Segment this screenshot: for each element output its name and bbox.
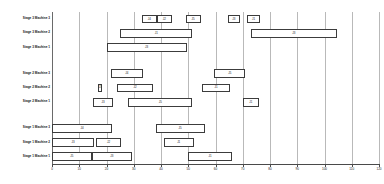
gantt-bar-label: J2 [107, 141, 110, 144]
gantt-bar-label: J3 [232, 18, 235, 21]
x-tick-label-80: 80 [268, 168, 271, 171]
gantt-bar-label: J3 [292, 32, 295, 35]
gantt-bar-label: J3 [102, 101, 105, 104]
row-label-stage-3-machine-1: Stage 3 Machine 1 [2, 46, 50, 49]
x-tick-label-0: 0 [51, 168, 53, 171]
row-label-stage-2-machine-3: Stage 2 Machine 3 [2, 72, 50, 75]
gantt-bar-label: J1 [215, 86, 218, 89]
gantt-bar-label: J3 [145, 46, 148, 49]
plot-area: J4J2J5J3J1J1J3J3J4J5J3J2J1J3J5J1J4J5J3J2… [52, 12, 379, 164]
row-label-stage-1-machine-3: Stage 1 Machine 3 [2, 127, 50, 130]
gantt-bar[interactable]: J5 [214, 69, 245, 78]
x-tick-label-110: 110 [349, 168, 354, 171]
x-tick-label-70: 70 [241, 168, 244, 171]
x-tick-label-90: 90 [296, 168, 299, 171]
gantt-bar-label: J1 [249, 101, 252, 104]
x-tick-label-100: 100 [322, 168, 327, 171]
gantt-bar[interactable]: J2 [117, 84, 152, 93]
gantt-bar-label: J2 [134, 86, 137, 89]
gantt-bar[interactable]: J3 [107, 43, 187, 52]
gantt-bar[interactable]: J1 [164, 138, 194, 147]
gantt-bar-label: J4 [148, 18, 151, 21]
gantt-bar[interactable]: J5 [52, 152, 92, 161]
x-tick-label-60: 60 [214, 168, 217, 171]
gantt-bar[interactable]: J3 [93, 98, 113, 107]
gantt-bar-label: J3 [110, 155, 113, 158]
gantt-bar-label: J5 [228, 72, 231, 75]
row-label-column: Stage 3 Machine 3Stage 3 Machine 2Stage … [0, 12, 50, 164]
gantt-bar[interactable]: J3 [98, 84, 102, 93]
gantt-bar[interactable]: J1 [202, 84, 231, 93]
gridline-120 [379, 12, 380, 164]
gantt-chart: Stage 3 Machine 3Stage 3 Machine 2Stage … [0, 0, 384, 184]
gantt-bar-label: J5 [159, 101, 162, 104]
gantt-bar-label: J1 [252, 18, 255, 21]
row-label-stage-2-machine-2: Stage 2 Machine 2 [2, 86, 50, 89]
gantt-bar-label: J5 [178, 127, 181, 130]
gantt-bar-label: J1 [177, 141, 180, 144]
x-tick-label-20: 20 [105, 168, 108, 171]
gantt-bar[interactable]: J1 [243, 98, 259, 107]
gantt-bar-label: J4 [125, 72, 128, 75]
gantt-bar-label: J3 [99, 86, 102, 89]
gantt-bar[interactable]: J5 [128, 98, 192, 107]
gantt-bar-label: J5 [70, 155, 73, 158]
gantt-bar-label: J5 [191, 18, 194, 21]
gantt-bar[interactable]: J3 [52, 138, 94, 147]
x-tick-label-30: 30 [132, 168, 135, 171]
gantt-bar[interactable]: J1 [247, 15, 261, 24]
gantt-bar-label: J3 [72, 141, 75, 144]
gantt-bar[interactable]: J3 [92, 152, 133, 161]
gantt-bar[interactable]: J5 [156, 124, 205, 133]
gridline-70 [243, 12, 244, 164]
gantt-bar[interactable]: J3 [228, 15, 240, 24]
gantt-bar-label: J4 [80, 127, 83, 130]
x-tick-label-50: 50 [187, 168, 190, 171]
gantt-bar[interactable]: J4 [111, 69, 144, 78]
gantt-bar[interactable]: J4 [52, 124, 112, 133]
row-label-stage-3-machine-3: Stage 3 Machine 3 [2, 17, 50, 20]
x-axis: 0102030405060708090100110120 [52, 164, 379, 182]
x-tick-label-40: 40 [159, 168, 162, 171]
gantt-bar-label: J2 [163, 18, 166, 21]
gantt-bar[interactable]: J3 [251, 29, 337, 38]
gantt-bar[interactable]: J1 [188, 152, 232, 161]
gantt-bar[interactable]: J2 [157, 15, 172, 24]
row-label-stage-2-machine-1: Stage 2 Machine 1 [2, 101, 50, 104]
row-label-stage-3-machine-2: Stage 3 Machine 2 [2, 32, 50, 35]
gantt-bar[interactable]: J4 [142, 15, 157, 24]
x-tick-label-120: 120 [376, 168, 381, 171]
gantt-bar[interactable]: J1 [120, 29, 192, 38]
gantt-bar[interactable]: J2 [96, 138, 122, 147]
row-label-stage-1-machine-2: Stage 1 Machine 2 [2, 141, 50, 144]
gantt-bar-label: J1 [208, 155, 211, 158]
gridline-110 [352, 12, 353, 164]
gantt-bar[interactable]: J5 [186, 15, 201, 24]
row-label-stage-1-machine-1: Stage 1 Machine 1 [2, 155, 50, 158]
gantt-bar-label: J1 [155, 32, 158, 35]
x-tick-label-10: 10 [78, 168, 81, 171]
